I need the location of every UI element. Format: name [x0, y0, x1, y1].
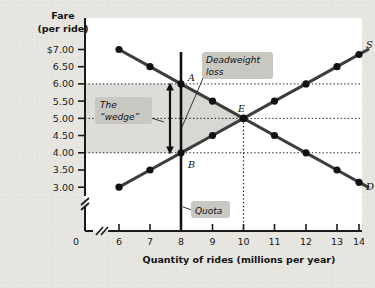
y-axis-ticks — [78, 50, 85, 188]
deadweight-loss-callout: Deadweight loss — [202, 52, 273, 79]
x-tick-label-9: 9 — [209, 236, 215, 247]
wedge-callout-line1: The — [100, 100, 117, 110]
point-b-label: B — [187, 159, 195, 170]
y-axis-title-line2: (per ride) — [37, 23, 88, 34]
y-tick-label-6-00: 6.00 — [53, 78, 74, 89]
x-tick-label-7: 7 — [147, 236, 153, 247]
y-tick-label-5-50: 5.50 — [53, 96, 74, 107]
x-tick-label-8: 8 — [178, 236, 184, 247]
y-tick-label-6-50: 6.50 — [53, 61, 74, 72]
quota-deadweight-loss-chart: 3.00 3.50 4.00 4.50 5.00 5.50 6.00 6.50 … — [0, 0, 375, 288]
quota-callout: Quota — [191, 201, 230, 218]
y-tick-label-5-00: 5.00 — [53, 113, 74, 124]
y-tick-label-7-00: $7.00 — [47, 44, 74, 55]
y-tick-label-3-00: 3.00 — [53, 182, 74, 193]
x-tick-label-12: 12 — [300, 236, 312, 247]
x-tick-label-11: 11 — [268, 236, 280, 247]
wedge-callout-line2: “wedge” — [100, 112, 140, 122]
y-axis-title-line1: Fare — [51, 10, 74, 21]
deadweight-loss-callout-line1: Deadweight — [206, 55, 261, 65]
x-tick-label-14: 14 — [353, 236, 365, 247]
x-tick-label-13: 13 — [331, 236, 343, 247]
point-e-label: E — [237, 103, 245, 114]
point-a-label: A — [187, 72, 195, 83]
deadweight-loss-callout-line2: loss — [206, 67, 224, 77]
quota-callout-label: Quota — [195, 206, 222, 216]
y-tick-label-4-00: 4.00 — [53, 147, 74, 158]
supply-curve-label: S — [366, 39, 373, 50]
x-tick-label-10: 10 — [237, 236, 249, 247]
y-tick-label-4-50: 4.50 — [53, 130, 74, 141]
y-tick-label-3-50: 3.50 — [53, 164, 74, 175]
x-origin-label: 0 — [73, 236, 79, 247]
x-axis-title: Quantity of rides (millions per year) — [143, 254, 336, 265]
wedge-callout: The “wedge” — [95, 97, 152, 124]
demand-curve-label: D — [365, 181, 374, 192]
x-tick-label-6: 6 — [116, 236, 122, 247]
